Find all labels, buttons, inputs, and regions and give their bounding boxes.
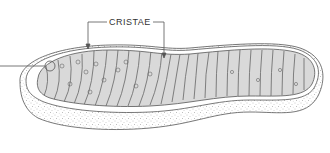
mitochondrion-diagram (0, 0, 330, 153)
cristae-label: CRISTAE (107, 17, 153, 27)
